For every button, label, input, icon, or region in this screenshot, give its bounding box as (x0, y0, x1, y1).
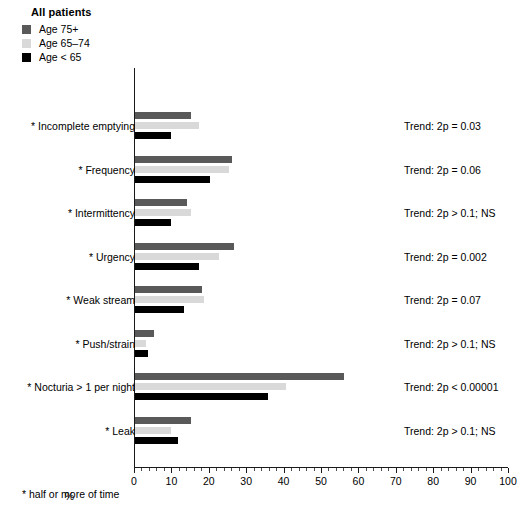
bar-group: * Incomplete emptyingTrend: 2p = 0.03 (0, 108, 531, 148)
bar-group: * Weak streamTrend: 2p = 0.07 (0, 282, 531, 322)
x-axis-minor-tick (299, 468, 300, 471)
x-axis-minor-tick (224, 468, 225, 471)
trend-annotation: Trend: 2p > 0.1; NS (404, 425, 496, 437)
x-axis-minor-tick (314, 468, 315, 471)
x-axis-minor-tick (493, 468, 494, 471)
x-axis-tick-label: 30 (231, 475, 261, 487)
bar (135, 417, 191, 424)
x-axis-major-tick (471, 468, 472, 473)
x-axis-minor-tick (194, 468, 195, 471)
x-axis-tick-label: 80 (418, 475, 448, 487)
x-axis-minor-tick (463, 468, 464, 471)
x-axis-major-tick (134, 468, 135, 473)
x-axis-minor-tick (239, 468, 240, 471)
x-axis-minor-tick (254, 468, 255, 471)
category-label: * Urgency (89, 251, 135, 263)
bar (135, 340, 146, 347)
bar (135, 263, 199, 270)
bars-wrapper (135, 156, 232, 186)
bar-group: * LeakTrend: 2p > 0.1; NS (0, 413, 531, 453)
bar (135, 209, 191, 216)
bar (135, 296, 204, 303)
x-axis-major-tick (171, 468, 172, 473)
bar (135, 383, 286, 390)
x-axis-minor-tick (343, 468, 344, 471)
category-label: * Weak stream (66, 294, 135, 306)
x-axis-minor-tick (403, 468, 404, 471)
x-axis-minor-tick (261, 468, 262, 471)
bars-wrapper (135, 112, 199, 142)
x-axis-minor-tick (149, 468, 150, 471)
x-axis-tick-label: 10 (156, 475, 186, 487)
bar (135, 112, 191, 119)
bars-wrapper (135, 330, 154, 360)
x-axis-major-tick (508, 468, 509, 473)
x-axis-minor-tick (366, 468, 367, 471)
x-axis-minor-tick (381, 468, 382, 471)
x-axis-minor-tick (231, 468, 232, 471)
trend-annotation: Trend: 2p < 0.00001 (404, 381, 498, 393)
x-axis-tick-label: 90 (456, 475, 486, 487)
x-axis-minor-tick (201, 468, 202, 471)
x-axis-minor-tick (501, 468, 502, 471)
bar (135, 132, 171, 139)
bar-group: * Nocturia > 1 per nightTrend: 2p < 0.00… (0, 369, 531, 409)
trend-annotation: Trend: 2p = 0.06 (404, 164, 481, 176)
chart-footnote: * half or more of time (22, 488, 119, 500)
x-axis-tick-label: 20 (194, 475, 224, 487)
x-axis-minor-tick (291, 468, 292, 471)
category-label: * Leak (105, 425, 135, 437)
x-axis-tick-label: 0 (119, 475, 149, 487)
bar (135, 306, 184, 313)
x-axis-minor-tick (141, 468, 142, 471)
x-axis-minor-tick (448, 468, 449, 471)
bar (135, 199, 187, 206)
x-axis-tick-label: 60 (343, 475, 373, 487)
bar (135, 350, 148, 357)
bar (135, 427, 171, 434)
x-axis-minor-tick (164, 468, 165, 471)
category-label: * Incomplete emptying (31, 120, 135, 132)
bar (135, 253, 219, 260)
x-axis-minor-tick (388, 468, 389, 471)
x-axis-tick-label: 70 (381, 475, 411, 487)
bars-wrapper (135, 373, 344, 403)
bar (135, 122, 199, 129)
bar (135, 437, 178, 444)
x-axis-minor-tick (328, 468, 329, 471)
category-label: * Frequency (78, 164, 135, 176)
x-axis-minor-tick (269, 468, 270, 471)
x-axis-major-tick (246, 468, 247, 473)
x-axis-major-tick (321, 468, 322, 473)
x-axis-minor-tick (426, 468, 427, 471)
x-axis-minor-tick (179, 468, 180, 471)
bar (135, 166, 229, 173)
trend-annotation: Trend: 2p = 0.03 (404, 120, 481, 132)
x-axis-minor-tick (373, 468, 374, 471)
x-axis-minor-tick (306, 468, 307, 471)
x-axis-minor-tick (441, 468, 442, 471)
bar-chart-plot: 0102030405060708090100 * Incomplete empt… (0, 0, 531, 516)
bars-wrapper (135, 286, 204, 316)
x-axis-minor-tick (486, 468, 487, 471)
bar-group: * Push/strainTrend: 2p > 0.1; NS (0, 326, 531, 366)
x-axis-minor-tick (276, 468, 277, 471)
bars-wrapper (135, 199, 191, 229)
x-axis-tick-label: 40 (269, 475, 299, 487)
bar (135, 156, 232, 163)
x-axis-major-tick (209, 468, 210, 473)
x-axis-minor-tick (336, 468, 337, 471)
x-axis-minor-tick (478, 468, 479, 471)
x-axis-minor-tick (351, 468, 352, 471)
bar (135, 393, 268, 400)
bar-group: * FrequencyTrend: 2p = 0.06 (0, 152, 531, 192)
category-label: * Nocturia > 1 per night (27, 381, 135, 393)
x-axis-major-tick (358, 468, 359, 473)
trend-annotation: Trend: 2p = 0.07 (404, 294, 481, 306)
x-axis-major-tick (284, 468, 285, 473)
x-axis-tick-label: 50 (306, 475, 336, 487)
bar-group: * IntermittencyTrend: 2p > 0.1; NS (0, 195, 531, 235)
bar (135, 286, 202, 293)
bar (135, 176, 210, 183)
x-axis-minor-tick (418, 468, 419, 471)
